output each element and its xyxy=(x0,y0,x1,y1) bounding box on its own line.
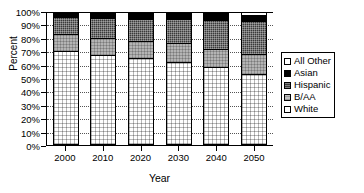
bar-segment-baa xyxy=(167,44,191,62)
y-axis-tick-label: 10% xyxy=(21,128,40,137)
bar-2040 xyxy=(203,12,229,145)
plot-area xyxy=(46,12,273,146)
x-axis-tick-label: 2050 xyxy=(236,152,272,163)
x-axis-tickmark xyxy=(254,146,255,151)
bar-segment-hispanic xyxy=(54,18,78,35)
x-axis-tick-label: 2000 xyxy=(47,152,83,163)
legend-swatch-asian-icon xyxy=(284,70,291,77)
x-axis-tickmarks xyxy=(46,146,273,151)
x-axis-tick-label: 2040 xyxy=(198,152,234,163)
bar-2020 xyxy=(128,12,154,145)
bar-segment-baa xyxy=(91,39,115,56)
bar-segment-white xyxy=(242,75,266,144)
x-axis-tickmark xyxy=(65,146,66,151)
bar-segment-white xyxy=(167,63,191,144)
bar-segment-baa xyxy=(242,55,266,75)
x-axis-tickmark xyxy=(178,146,179,151)
legend-swatch-baa-icon xyxy=(284,94,291,101)
bar-2050 xyxy=(241,12,267,145)
bar-segment-baa xyxy=(129,42,153,59)
x-axis-tick-labels: 200020102020203020402050 xyxy=(46,152,273,163)
bar-segment-hispanic xyxy=(204,21,228,50)
bar-segment-hispanic xyxy=(129,20,153,42)
legend-item-other: All Other xyxy=(284,55,331,67)
bar-2030 xyxy=(166,12,192,145)
legend-item-label: Hispanic xyxy=(294,80,330,90)
bar-2000 xyxy=(53,12,79,145)
x-axis-tickmark xyxy=(141,146,142,151)
y-axis-tick-label: 50% xyxy=(21,75,40,84)
x-axis-tickmark xyxy=(103,146,104,151)
bar-2010 xyxy=(90,12,116,145)
y-axis-tick-label: 0% xyxy=(26,142,40,151)
legend-item-white: White xyxy=(284,103,331,115)
x-axis-tick-label: 2030 xyxy=(160,152,196,163)
y-axis-tick-label: 40% xyxy=(21,88,40,97)
y-axis-tick-label: 20% xyxy=(21,115,40,124)
y-axis-tick-label: 60% xyxy=(21,61,40,70)
legend-item-label: White xyxy=(294,104,318,114)
x-axis-tick-label: 2010 xyxy=(85,152,121,163)
legend-swatch-hispanic-icon xyxy=(284,82,291,89)
x-axis-title: Year xyxy=(46,172,273,184)
legend-swatch-other-icon xyxy=(284,58,291,65)
stacked-bar-chart: Percent 100%90%80%70%60%50%40%30%20%10%0… xyxy=(0,0,364,193)
y-axis-tick-label: 90% xyxy=(21,21,40,30)
legend-item-asian: Asian xyxy=(284,67,331,79)
bar-segment-baa xyxy=(54,35,78,52)
bar-segment-white xyxy=(54,52,78,144)
x-axis-tickmark xyxy=(216,146,217,151)
y-axis-tick-label: 100% xyxy=(16,8,40,17)
legend-item-label: B/AA xyxy=(294,92,316,102)
bar-group xyxy=(47,12,273,145)
bar-segment-white xyxy=(129,59,153,144)
chart-legend: All OtherAsianHispanicB/AAWhite xyxy=(281,52,335,118)
x-axis-tick-label: 2020 xyxy=(123,152,159,163)
bar-segment-hispanic xyxy=(91,19,115,39)
y-axis-tick-labels: 100%90%80%70%60%50%40%30%20%10%0% xyxy=(0,12,44,146)
bar-segment-hispanic xyxy=(167,20,191,45)
legend-swatch-white-icon xyxy=(284,106,291,113)
bar-segment-hispanic xyxy=(242,22,266,55)
legend-item-label: Asian xyxy=(294,68,318,78)
legend-item-hispanic: Hispanic xyxy=(284,79,331,91)
bar-segment-white xyxy=(91,56,115,144)
y-axis-tick-label: 30% xyxy=(21,101,40,110)
legend-item-baa: B/AA xyxy=(284,91,331,103)
y-axis-tick-label: 70% xyxy=(21,48,40,57)
legend-item-label: All Other xyxy=(294,56,331,66)
bar-segment-baa xyxy=(204,50,228,68)
bar-segment-white xyxy=(204,68,228,144)
y-axis-tick-label: 80% xyxy=(21,34,40,43)
